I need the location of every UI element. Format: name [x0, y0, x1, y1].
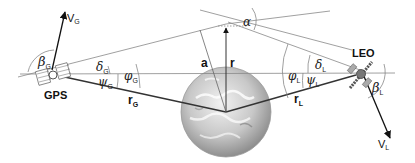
- gps-label: GPS: [44, 89, 67, 101]
- arc-alpha: [252, 8, 256, 30]
- vector-r-label: r: [230, 56, 235, 70]
- leo-label: LEO: [352, 47, 375, 59]
- arc-phi-gps: [136, 64, 140, 88]
- ray-leo-main: [228, 22, 360, 70]
- beta-leo-label: βL: [371, 80, 384, 96]
- arc-psi-gps: [117, 74, 118, 88]
- beta-gps-label: βG: [37, 54, 51, 70]
- leo-satellite-icon: [347, 62, 372, 88]
- delta-gps-label: δG: [96, 60, 109, 75]
- vector-r-leo-label: rL: [294, 92, 304, 107]
- arc-psi-leo: [302, 73, 303, 88]
- velocity-gps: [52, 12, 65, 70]
- velocity-leo-label: VL: [378, 138, 389, 151]
- arc-delta-leo: [308, 55, 310, 73]
- baseline: [20, 73, 395, 74]
- ray-leo-in: [226, 11, 330, 24]
- phi-leo-label: φL: [288, 69, 300, 84]
- occultation-diagram: GPS LEO VG VL βG βL δG ψG φG δL ψL φL α …: [0, 0, 415, 163]
- delta-leo-label: δL: [315, 58, 326, 73]
- vector-a-label: a: [201, 56, 208, 70]
- phi-gps-label: φG: [124, 69, 138, 84]
- alpha-label: α: [243, 15, 251, 29]
- vector-r-gps-label: rG: [128, 93, 139, 108]
- velocity-gps-label: VG: [67, 12, 80, 25]
- psi-gps-label: ψG: [98, 75, 113, 90]
- ray-leo: [200, 10, 352, 50]
- psi-leo-label: ψL: [306, 73, 319, 88]
